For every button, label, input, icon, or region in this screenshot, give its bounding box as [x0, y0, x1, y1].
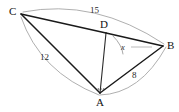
- segment-db: [106, 33, 163, 46]
- measure-label-ab: 8: [132, 71, 137, 80]
- measure-label-cb: 15: [90, 6, 99, 15]
- vertex-label-a: A: [96, 97, 104, 108]
- geometry-figure: C D B A 15 12 8 x: [0, 0, 179, 112]
- angle-label-x: x: [121, 43, 125, 52]
- vertex-label-c: C: [9, 6, 16, 17]
- figure-canvas: [0, 0, 179, 112]
- segment-cd: [21, 14, 106, 33]
- tick-mark-a1: [98, 88, 99, 90]
- vertex-label-d: D: [100, 19, 108, 30]
- vertex-label-b: B: [167, 40, 174, 51]
- segment-ca: [21, 14, 100, 93]
- segment-ad: [100, 33, 106, 93]
- measure-label-ca: 12: [40, 53, 49, 62]
